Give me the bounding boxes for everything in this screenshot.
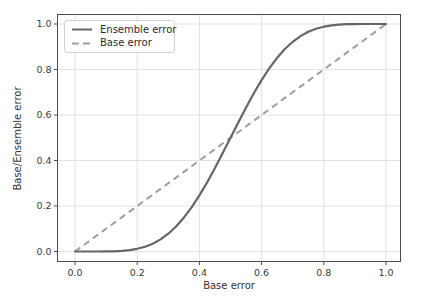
- y-tick-label: 0.2: [36, 200, 51, 211]
- y-tick-label: 0.8: [36, 64, 51, 75]
- legend: Ensemble error Base error: [64, 20, 175, 53]
- y-axis-label: Base/Ensemble error: [12, 29, 25, 249]
- x-tick-label: 0.6: [254, 267, 269, 278]
- legend-label-ensemble-error: Ensemble error: [100, 25, 176, 35]
- y-tick-label: 0.6: [36, 109, 51, 120]
- x-axis-label: Base error: [57, 280, 401, 292]
- x-tick-label: 0.4: [192, 267, 207, 278]
- legend-item-base-error: Base error: [71, 37, 168, 50]
- ensemble-error-line-icon: [71, 27, 93, 32]
- legend-item-ensemble-error: Ensemble error: [71, 23, 168, 36]
- y-tick-label: 0.0: [36, 246, 51, 257]
- base-error-line-icon: [71, 41, 93, 46]
- y-tick-label: 0.4: [36, 155, 51, 166]
- y-tick-label: 1.0: [36, 18, 51, 29]
- x-tick-label: 0.2: [130, 267, 145, 278]
- figure: 0.00.20.40.60.81.00.00.20.40.60.81.0 Ens…: [0, 0, 423, 303]
- legend-label-base-error: Base error: [100, 38, 152, 48]
- x-tick-label: 0.0: [67, 267, 82, 278]
- x-tick-label: 0.8: [316, 267, 331, 278]
- x-tick-label: 1.0: [378, 267, 393, 278]
